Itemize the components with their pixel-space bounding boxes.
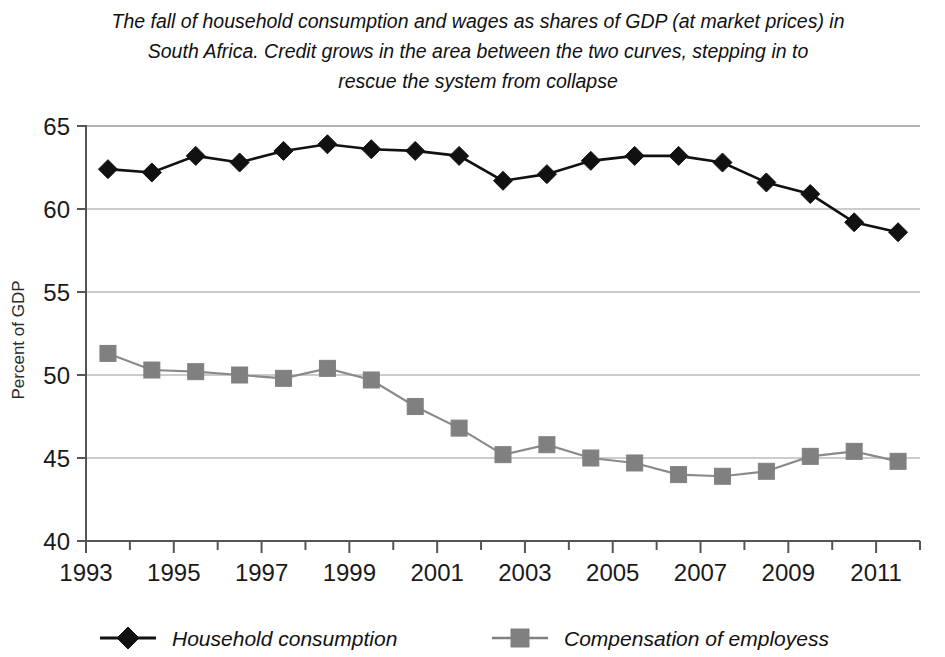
y-tick-label: 45: [43, 445, 70, 472]
legend-item: Compensation of employess: [492, 627, 829, 650]
data-point-marker-square: [495, 447, 511, 463]
data-point-marker-diamond: [494, 171, 513, 190]
data-point-marker-square: [511, 629, 529, 647]
data-point-marker-diamond: [186, 146, 205, 165]
data-point-marker-square: [671, 467, 687, 483]
x-tick-label: 2001: [410, 559, 463, 586]
x-tick-label: 2009: [762, 559, 815, 586]
data-point-marker-diamond: [537, 165, 556, 184]
x-tick-label: 1993: [59, 559, 112, 586]
chart-legend: Household consumptionCompensation of emp…: [100, 627, 829, 650]
data-point-marker-square: [100, 345, 116, 361]
data-point-marker-square: [232, 367, 248, 383]
data-point-marker-square: [319, 360, 335, 376]
x-axis-tick-labels: 1993199519971999200120032005200720092011: [59, 559, 902, 586]
data-point-marker-diamond: [845, 213, 864, 232]
y-tick-label: 50: [43, 362, 70, 389]
data-point-marker-square: [363, 372, 379, 388]
y-axis-tick-labels: 404550556065: [43, 113, 70, 555]
data-point-marker-diamond: [98, 160, 117, 179]
x-tick-label: 1997: [235, 559, 288, 586]
data-series: [100, 345, 906, 484]
legend-item: Household consumption: [100, 627, 397, 650]
legend-label: Household consumption: [172, 627, 397, 650]
data-point-marker-square: [802, 448, 818, 464]
data-point-marker-diamond: [117, 627, 139, 649]
data-point-marker-diamond: [450, 146, 469, 165]
data-series-layer: [98, 135, 907, 485]
data-point-marker-square: [890, 453, 906, 469]
data-point-marker-square: [714, 468, 730, 484]
chart-figure: The fall of household consumption and wa…: [0, 0, 945, 657]
data-point-marker-square: [144, 362, 160, 378]
data-point-marker-diamond: [142, 163, 161, 182]
x-tick-label: 1999: [323, 559, 376, 586]
line-chart-plot: 404550556065 199319951997199920012003200…: [0, 0, 945, 657]
data-point-marker-square: [583, 450, 599, 466]
data-point-marker-diamond: [625, 146, 644, 165]
data-point-marker-diamond: [801, 185, 820, 204]
data-point-marker-diamond: [406, 141, 425, 160]
x-tick-label: 1995: [147, 559, 200, 586]
y-tick-label: 65: [43, 113, 70, 140]
data-point-marker-diamond: [362, 140, 381, 159]
data-point-marker-square: [451, 420, 467, 436]
data-point-marker-diamond: [318, 135, 337, 154]
data-point-marker-square: [539, 437, 555, 453]
data-point-marker-diamond: [757, 173, 776, 192]
y-axis-title: Percent of GDP: [9, 280, 28, 399]
x-tick-label: 2007: [674, 559, 727, 586]
data-point-marker-square: [407, 399, 423, 415]
data-point-marker-diamond: [669, 146, 688, 165]
data-point-marker-square: [758, 463, 774, 479]
y-tick-label: 60: [43, 196, 70, 223]
x-tick-label: 2003: [498, 559, 551, 586]
data-point-marker-square: [188, 364, 204, 380]
legend-label: Compensation of employess: [564, 627, 829, 650]
x-axis-ticks: [86, 541, 920, 553]
y-axis-ticks: [77, 126, 86, 541]
x-tick-label: 2011: [850, 559, 902, 586]
data-point-marker-diamond: [581, 151, 600, 170]
data-point-marker-diamond: [274, 141, 293, 160]
y-tick-label: 40: [43, 528, 70, 555]
x-tick-label: 2005: [586, 559, 639, 586]
data-point-marker-square: [627, 455, 643, 471]
data-point-marker-diamond: [713, 153, 732, 172]
data-point-marker-square: [276, 370, 292, 386]
data-series: [98, 135, 907, 242]
data-point-marker-diamond: [230, 153, 249, 172]
data-point-marker-square: [846, 443, 862, 459]
y-tick-label: 55: [43, 279, 70, 306]
data-point-marker-diamond: [889, 223, 908, 242]
